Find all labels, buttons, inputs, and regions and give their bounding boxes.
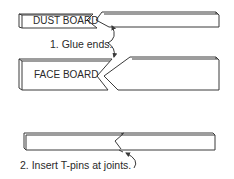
face-board-label: FACE BOARD (34, 70, 98, 80)
assembled-strip (24, 133, 215, 152)
face-board-right-piece (104, 57, 219, 90)
dust-board-right-piece (96, 12, 219, 27)
strip-joint (115, 134, 123, 149)
diagram-canvas (0, 0, 234, 179)
step-1-label: 1. Glue ends. (50, 39, 112, 50)
dust-board-label: DUST BOARD (33, 16, 98, 26)
step-2-label: 2. Insert T-pins at joints. (20, 160, 131, 171)
